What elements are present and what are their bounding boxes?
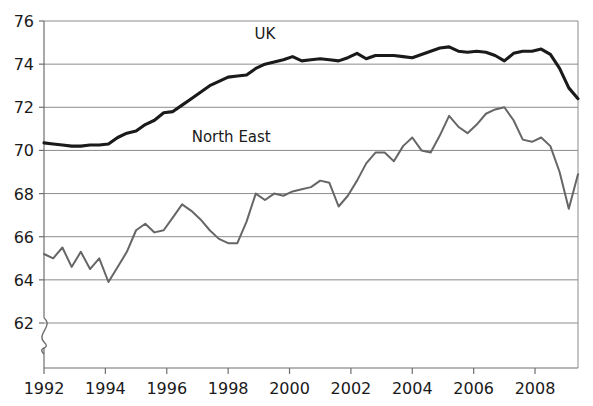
- x-tick-label: 2004: [392, 379, 433, 398]
- line-chart: 199219941996199820002002200420062008 626…: [0, 0, 593, 406]
- x-axis-tick-labels: 199219941996199820002002200420062008: [24, 379, 556, 398]
- series-label-uk: UK: [255, 25, 277, 43]
- x-tick-label: 1994: [85, 379, 126, 398]
- x-tick-label: 2008: [515, 379, 556, 398]
- x-tick-label: 2000: [269, 379, 310, 398]
- y-tick-label: 72: [14, 98, 34, 117]
- y-tick-label: 76: [14, 12, 34, 31]
- y-tick-label: 70: [14, 141, 34, 160]
- y-tick-label: 62: [14, 314, 34, 333]
- x-tick-label: 1998: [208, 379, 249, 398]
- y-tick-label: 64: [14, 271, 34, 290]
- x-tick-label: 2006: [453, 379, 494, 398]
- x-tick-label: 2002: [331, 379, 372, 398]
- x-tick-label: 1992: [24, 379, 65, 398]
- y-tick-label: 74: [14, 55, 34, 74]
- y-tick-label: 66: [14, 228, 34, 247]
- chart-page: 199219941996199820002002200420062008 626…: [0, 0, 593, 406]
- y-tick-label: 68: [14, 185, 34, 204]
- x-tick-label: 1996: [146, 379, 187, 398]
- series-label-north-east: North East: [192, 128, 271, 146]
